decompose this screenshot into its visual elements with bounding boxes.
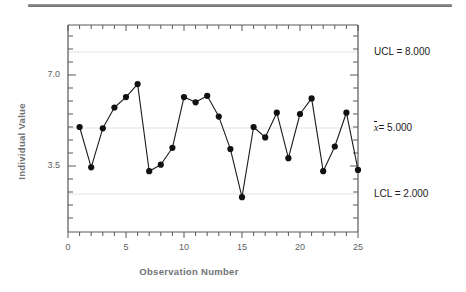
- data-point: [169, 145, 175, 151]
- data-point: [193, 99, 199, 105]
- y-tick-label-3-5: 3.5: [30, 160, 60, 170]
- y-axis-ticks: [68, 36, 76, 218]
- x-axis-title: Observation Number: [0, 266, 466, 277]
- x-tick-label-25: 25: [346, 242, 370, 252]
- data-point: [135, 81, 141, 87]
- gridlines: [68, 52, 358, 194]
- data-point: [123, 94, 129, 100]
- x-axis-ticks: [68, 232, 358, 238]
- center-line-annotation: x= 5.000: [374, 122, 412, 133]
- x-tick-label-5: 5: [114, 242, 138, 252]
- data-point: [216, 114, 222, 120]
- center-line-value: = 5.000: [378, 122, 412, 133]
- x-tick-label-20: 20: [288, 242, 312, 252]
- data-point: [181, 94, 187, 100]
- x-axis-ticks-top: [68, 25, 358, 31]
- data-point: [146, 168, 152, 174]
- control-chart-page: 7.0 3.5 0 5 10 15 20 25 UCL = 8.000 x= 5…: [0, 0, 466, 292]
- data-point: [309, 95, 315, 101]
- data-point: [88, 164, 94, 170]
- data-point: [111, 104, 117, 110]
- data-point: [100, 125, 106, 131]
- y-tick-label-7: 7.0: [30, 69, 60, 79]
- y-axis-ticks-right: [350, 36, 358, 218]
- data-point: [274, 110, 280, 116]
- lcl-annotation: LCL = 2.000: [374, 188, 428, 199]
- data-point: [332, 143, 338, 149]
- data-point: [204, 93, 210, 99]
- x-tick-label-10: 10: [172, 242, 196, 252]
- data-point: [227, 146, 233, 152]
- x-bar-symbol: x: [374, 122, 378, 133]
- data-point: [285, 155, 291, 161]
- individuals-control-chart: 7.0 3.5 0 5 10 15 20 25 UCL = 8.000 x= 5…: [0, 0, 466, 292]
- series-line: [80, 84, 358, 197]
- ucl-annotation: UCL = 8.000: [374, 46, 430, 57]
- data-point: [297, 111, 303, 117]
- data-point: [343, 110, 349, 116]
- data-point: [251, 124, 257, 130]
- x-tick-label-0: 0: [56, 242, 80, 252]
- data-point: [262, 134, 268, 140]
- data-point: [77, 124, 83, 130]
- data-point: [239, 194, 245, 200]
- y-axis-title: Individual Value: [16, 87, 27, 197]
- data-point: [320, 168, 326, 174]
- data-point: [158, 162, 164, 168]
- data-point: [355, 167, 361, 173]
- x-tick-label-15: 15: [230, 242, 254, 252]
